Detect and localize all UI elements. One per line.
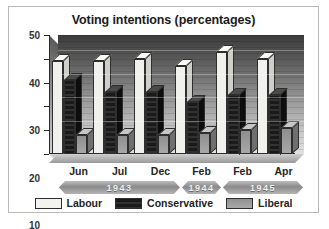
bar-front <box>52 61 63 154</box>
bar-front <box>240 130 251 154</box>
bar-front <box>187 102 198 154</box>
gridline <box>58 121 304 122</box>
bar-front <box>269 95 280 155</box>
bar-front <box>93 61 104 154</box>
x-axis-tick-label: Jun <box>69 165 88 177</box>
gridline <box>58 50 304 51</box>
bar-group <box>131 35 172 154</box>
legend-swatch-conservative <box>115 198 142 209</box>
gridline <box>58 97 304 98</box>
bar-front <box>64 80 75 154</box>
legend-label: Liberal <box>258 197 292 209</box>
bar-front <box>199 133 210 154</box>
bar-group <box>254 35 295 154</box>
gridline <box>58 74 304 75</box>
y-axis-tick-label: 10 <box>29 220 40 228</box>
y-axis-tick-label: 40 <box>29 77 40 88</box>
bar-liberal-feb-1944[interactable] <box>199 133 210 154</box>
bar-group <box>213 35 254 154</box>
legend-label: Labour <box>67 197 103 209</box>
bar-front <box>158 135 169 154</box>
bar-liberal-jul-1943[interactable] <box>117 135 128 154</box>
bar-front <box>105 92 116 154</box>
legend-item-conservative[interactable]: Conservative <box>115 197 213 209</box>
y-axis-tick-label: 50 <box>29 30 40 41</box>
year-banner-bar: 194319441945 <box>49 181 304 194</box>
x-axis-labels: JunJulDecFebFebApr <box>49 165 304 179</box>
year-banner-1943: 1943 <box>59 181 180 194</box>
bar-conservative-jun-1943[interactable] <box>64 80 75 154</box>
bar-group <box>172 35 213 154</box>
bar-labour-jul-1943[interactable] <box>93 61 104 154</box>
bar-conservative-jul-1943[interactable] <box>105 92 116 154</box>
chart-frame: Voting intentions (percentages) 01020304… <box>8 6 319 213</box>
bar-front <box>228 95 239 155</box>
x-axis-tick-label: Feb <box>233 165 252 177</box>
chart-legend: LabourConservativeLiberal <box>9 197 318 209</box>
x-axis-tick-label: Apr <box>274 165 292 177</box>
bar-front <box>76 135 87 154</box>
bar-front <box>117 135 128 154</box>
legend-swatch-labour <box>35 198 62 209</box>
bar-conservative-feb-1945[interactable] <box>228 95 239 155</box>
bar-labour-feb-1944[interactable] <box>175 66 186 154</box>
bar-front <box>216 52 227 154</box>
legend-label: Conservative <box>147 197 213 209</box>
y-axis-tick-label: 30 <box>29 125 40 136</box>
bar-conservative-dec-1943[interactable] <box>146 92 157 154</box>
bar-group <box>90 35 131 154</box>
year-banner-1944: 1944 <box>182 181 221 194</box>
bar-labour-jun-1943[interactable] <box>52 61 63 154</box>
page-title: Voting intentions (percentages) <box>9 13 318 27</box>
bar-front <box>175 66 186 154</box>
y-axis-tick-label: 20 <box>29 172 40 183</box>
bar-liberal-feb-1945[interactable] <box>240 130 251 154</box>
bar-front <box>281 128 292 154</box>
bar-group <box>49 35 90 154</box>
bar-liberal-jun-1943[interactable] <box>76 135 87 154</box>
bar-conservative-feb-1944[interactable] <box>187 102 198 154</box>
bar-labour-feb-1945[interactable] <box>216 52 227 154</box>
x-axis-tick-label: Feb <box>192 165 211 177</box>
plot-floor-panel <box>49 154 304 163</box>
bar-conservative-apr-1945[interactable] <box>269 95 280 155</box>
bar-liberal-dec-1943[interactable] <box>158 135 169 154</box>
bar-front <box>146 92 157 154</box>
x-axis-tick-label: Dec <box>151 165 170 177</box>
legend-item-liberal[interactable]: Liberal <box>226 197 292 209</box>
legend-item-labour[interactable]: Labour <box>35 197 103 209</box>
x-axis-tick-label: Jul <box>112 165 127 177</box>
plot-area: 01020304050 <box>49 35 304 163</box>
year-banner-1945: 1945 <box>223 181 303 194</box>
legend-swatch-liberal <box>226 198 253 209</box>
bar-liberal-apr-1945[interactable] <box>281 128 292 154</box>
y-axis-tick: 0 <box>44 154 49 155</box>
gridline <box>58 26 304 27</box>
